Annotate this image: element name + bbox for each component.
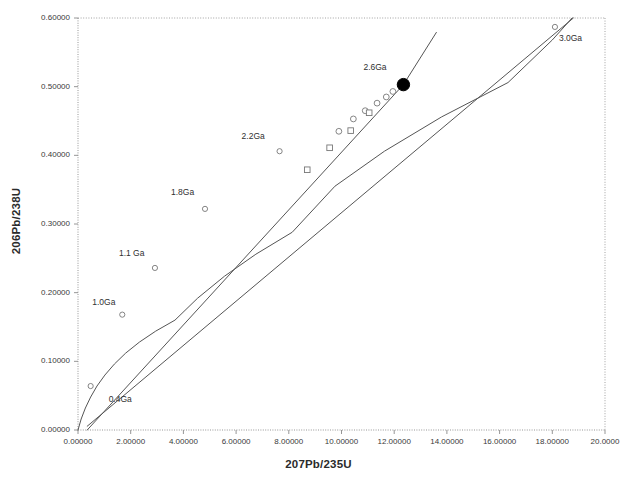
y-tick-label: 0.20000 [10,288,70,297]
data-marker-circle [336,128,342,134]
series-lower-regression-line [87,18,573,426]
y-tick-label: 0.30000 [10,219,70,228]
data-marker-circle [383,94,389,100]
series-discordia-line [87,32,436,430]
data-marker-circle [390,89,396,95]
age-label: 1.1 Ga [119,248,145,258]
age-label: 2.6Ga [363,62,386,72]
x-tick-label: 16.00000 [470,437,530,446]
age-label: 2.2Ga [242,131,265,141]
age-label: 1.0Ga [92,297,115,307]
data-point-markers [304,78,409,172]
data-marker-square [304,167,310,173]
x-tick-label: 20.0000 [575,437,635,446]
x-tick-label: 14.00000 [417,437,477,446]
data-marker-square [366,110,372,116]
y-tick-label: 0.60000 [10,13,70,22]
concordia-diagram-figure: 206Pb/238U 207Pb/235U 0.000002.000004.00… [0,0,637,489]
x-tick-label: 12.00000 [364,437,424,446]
y-tick-label: 0.00000 [10,425,70,434]
age-label: 1.8Ga [171,187,194,197]
age-label: 0.4Ga [109,394,132,404]
x-tick-label: 6.00000 [206,437,266,446]
age-label: 3.0Ga [559,33,582,43]
data-marker-circle [350,116,356,122]
age-tick-markers [88,24,557,388]
data-marker-square [327,145,333,151]
plot-canvas [0,0,637,489]
y-tick-label: 0.50000 [10,82,70,91]
data-marker-circle [374,100,380,106]
x-tick-label: 2.00000 [101,437,161,446]
x-tick-label: 10.00000 [312,437,372,446]
x-tick-label: 8.00000 [259,437,319,446]
axis-ticks [74,18,605,434]
x-tick-label: 4.00000 [153,437,213,446]
y-tick-label: 0.40000 [10,150,70,159]
x-tick-label: 18.00000 [522,437,582,446]
x-tick-label: 0.00000 [48,437,108,446]
data-marker-filled [397,78,409,90]
x-axis-title: 207Pb/235U [0,458,637,470]
data-marker-square [348,128,354,134]
series-concordia-curve [78,18,572,430]
y-tick-label: 0.10000 [10,356,70,365]
